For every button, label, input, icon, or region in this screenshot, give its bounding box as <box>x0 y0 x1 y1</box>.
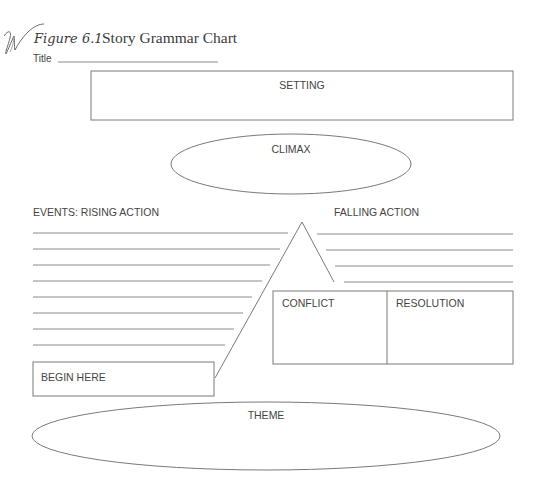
climax-ellipse[interactable]: CLIMAX <box>171 134 411 194</box>
conflict-cell[interactable]: CONFLICT <box>273 291 387 364</box>
figure-title: Story Grammar Chart <box>102 29 238 46</box>
begin-here-box[interactable]: BEGIN HERE <box>33 362 214 396</box>
theme-ellipse[interactable]: THEME <box>32 402 500 470</box>
rising-action-label: EVENTS: RISING ACTION <box>33 206 159 218</box>
falling-action-lines <box>317 234 513 282</box>
conflict-resolution-box: CONFLICT RESOLUTION <box>273 291 513 364</box>
title-field-label: Title <box>33 53 52 64</box>
story-grammar-worksheet: Figure 6.1 Story Grammar Chart Title SET… <box>0 0 538 490</box>
rising-action-lines <box>33 233 288 345</box>
resolution-cell[interactable]: RESOLUTION <box>387 291 513 364</box>
theme-label: THEME <box>248 409 285 421</box>
setting-box[interactable]: SETTING <box>91 71 513 120</box>
falling-leg <box>302 222 334 282</box>
falling-action-label: FALLING ACTION <box>334 206 419 218</box>
climax-label: CLIMAX <box>271 143 310 155</box>
begin-here-label: BEGIN HERE <box>41 371 106 383</box>
setting-label: SETTING <box>279 79 325 91</box>
resolution-label: RESOLUTION <box>396 297 464 309</box>
figure-label: Figure 6.1 <box>33 31 103 46</box>
conflict-label: CONFLICT <box>282 297 335 309</box>
